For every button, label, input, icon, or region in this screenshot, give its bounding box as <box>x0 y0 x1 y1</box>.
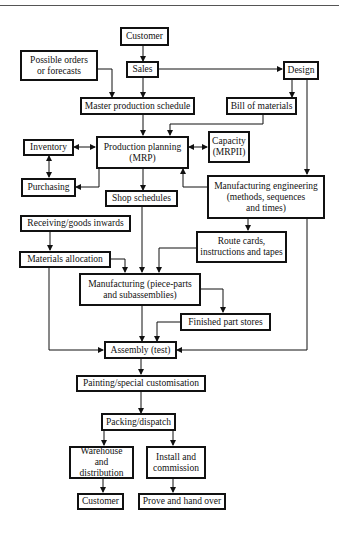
node-prove-and-hand-over: Prove and hand over <box>138 493 226 510</box>
node-receiving: Receiving/goods inwards <box>20 215 131 232</box>
node-bill-of-materials: Bill of materials <box>226 97 297 115</box>
node-materials-allocation: Materials allocation <box>19 251 111 268</box>
node-master-production-schedule: Master production schedule <box>80 97 195 115</box>
node-purchasing: Purchasing <box>21 178 76 197</box>
node-capacity: Capacity (MRPII) <box>208 131 250 163</box>
node-customer-top: Customer <box>120 27 169 46</box>
node-painting: Painting/special customisation <box>76 375 206 392</box>
node-manufacturing: Manufacturing (piece-parts and subassemb… <box>79 273 201 306</box>
node-production-planning: Production planning (MRP) <box>96 136 189 169</box>
node-possible-orders: Possible orders or forecasts <box>20 50 98 81</box>
node-shop-schedules: Shop schedules <box>105 190 178 207</box>
node-design: Design <box>283 61 319 80</box>
node-install: Install and commission <box>146 446 206 479</box>
node-packing: Packing/dispatch <box>101 413 176 431</box>
node-warehouse: Warehouse and distribution <box>69 446 134 479</box>
node-sales: Sales <box>126 61 159 78</box>
node-manufacturing-engineering: Manufacturing engineering (methods, sequ… <box>207 175 325 219</box>
node-route-cards: Route cards, instructions and tapes <box>196 231 287 263</box>
node-assembly: Assembly (test) <box>104 341 177 359</box>
node-finished-part-stores: Finished part stores <box>180 313 271 331</box>
node-customer-bottom: Customer <box>77 493 124 510</box>
node-inventory: Inventory <box>23 139 74 156</box>
